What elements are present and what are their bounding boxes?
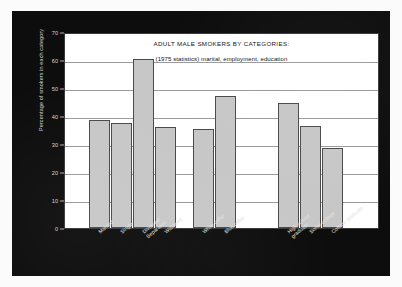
bar[interactable]: [111, 123, 132, 228]
x-axis-labels: MarriedSingleDivorced/SeparatedWidowedWh…: [64, 230, 379, 276]
y-tick-label: 10: [52, 198, 58, 204]
bar-series: [65, 34, 378, 228]
y-axis-label: Percentage of smokers in each category: [38, 29, 44, 131]
chart-page: 010203040506070 Percentage of smokers in…: [0, 0, 402, 287]
y-tick-label: 60: [52, 58, 58, 64]
y-tick-label: 30: [52, 142, 58, 148]
y-tick-label: 0: [55, 226, 58, 232]
bar[interactable]: [89, 120, 110, 228]
y-tick-label: 50: [52, 86, 58, 92]
plot-area: ADULT MALE SMOKERS BY CATEGORIES: (1975 …: [64, 33, 379, 229]
y-tick-label: 70: [52, 30, 58, 36]
bar[interactable]: [300, 126, 321, 228]
chart-title: ADULT MALE SMOKERS BY CATEGORIES:: [65, 40, 378, 47]
bar[interactable]: [278, 103, 299, 228]
bar[interactable]: [155, 127, 176, 228]
chart-figure-background: 010203040506070 Percentage of smokers in…: [12, 11, 390, 276]
y-tick-label: 40: [52, 114, 58, 120]
y-tick-label: 20: [52, 170, 58, 176]
bar[interactable]: [133, 59, 154, 228]
bar[interactable]: [193, 129, 214, 228]
chart-subtitle: (1975 statistics) marital, employment, e…: [65, 56, 378, 62]
bar[interactable]: [215, 96, 236, 228]
